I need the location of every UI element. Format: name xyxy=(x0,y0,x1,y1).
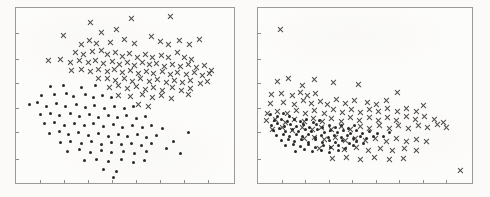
x-axis-tick xyxy=(208,180,209,183)
x-axis-tick xyxy=(446,180,447,183)
figure-container xyxy=(0,0,490,197)
x-axis-tick xyxy=(305,180,306,183)
y-axis-tick xyxy=(16,159,19,160)
x-axis-tick xyxy=(282,180,283,183)
plot-area-left xyxy=(16,8,234,183)
y-axis-tick xyxy=(16,59,19,60)
x-axis-tick xyxy=(160,180,161,183)
x-axis-tick xyxy=(399,180,400,183)
plot-area-right xyxy=(258,8,472,183)
x-axis-tick xyxy=(136,180,137,183)
x-axis-tick xyxy=(184,180,185,183)
x-axis-tick xyxy=(64,180,65,183)
x-axis-tick xyxy=(329,180,330,183)
x-axis-tick xyxy=(352,180,353,183)
y-axis-tick xyxy=(258,59,261,60)
x-axis-tick xyxy=(112,180,113,183)
y-axis-tick xyxy=(258,132,261,133)
y-axis-tick xyxy=(16,108,19,109)
y-axis-tick xyxy=(16,132,19,133)
scatter-panel-right xyxy=(257,7,473,184)
y-axis-tick xyxy=(258,33,261,34)
x-axis-tick xyxy=(423,180,424,183)
x-axis-tick xyxy=(376,180,377,183)
y-axis-tick xyxy=(16,83,19,84)
y-axis-tick xyxy=(258,83,261,84)
y-axis-tick xyxy=(16,33,19,34)
scatter-panel-left xyxy=(15,7,235,184)
x-axis-tick xyxy=(88,180,89,183)
y-axis-tick xyxy=(258,108,261,109)
x-axis-tick xyxy=(40,180,41,183)
y-axis-tick xyxy=(258,159,261,160)
